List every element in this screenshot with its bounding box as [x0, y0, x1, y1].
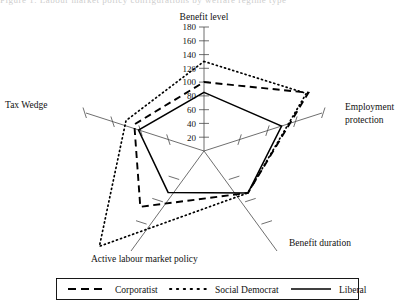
tick-label-180: 180 [183, 22, 197, 32]
tick-left-180 [83, 108, 86, 119]
legend-label-corporatist: Corporatist [115, 285, 158, 295]
axis-spoke-active-labour [131, 151, 204, 251]
tick-label-60: 60 [187, 105, 197, 115]
tick-label-160: 160 [183, 36, 197, 46]
legend-label-social-democrat: Social Democrat [215, 285, 279, 295]
tick-bl-60 [169, 176, 180, 179]
legend: Corporatist Social Democrat Liberal [57, 279, 367, 300]
tick-label-100: 100 [183, 77, 197, 87]
tick-bl-100 [152, 198, 163, 201]
tick-right-180 [322, 108, 325, 119]
tick-br-100 [245, 198, 256, 201]
tick-bl-140 [136, 221, 147, 224]
tick-label-140: 140 [183, 50, 197, 60]
radar-chart-svg: 20 40 60 80 100 120 140 160 180 Benefit … [0, 0, 414, 306]
radar-chart: 20 40 60 80 100 120 140 160 180 Benefit … [0, 0, 414, 306]
axis-spoke-benefit-duration [204, 151, 277, 251]
series-polygon-corporatist [134, 82, 308, 207]
axis-title-active-labour-market-policy: Active labour market policy [91, 254, 198, 264]
legend-label-liberal: Liberal [339, 285, 367, 295]
axis-title-benefit-duration: Benefit duration [289, 238, 351, 248]
tick-br-140 [261, 221, 272, 224]
axis-title-tax-wedge: Tax Wedge [5, 100, 47, 110]
radial-tick-labels: 20 40 60 80 100 120 140 160 180 [183, 22, 197, 142]
axis-title-benefit-level: Benefit level [180, 12, 229, 22]
series-polygon-liberal [139, 92, 282, 192]
axis-title-employment-protection-line2: protection [345, 115, 384, 125]
tick-br-60 [229, 176, 240, 179]
tick-label-40: 40 [187, 119, 197, 129]
tick-label-20: 20 [187, 133, 197, 143]
axis-title-employment-protection-line1: Employment [345, 102, 394, 112]
